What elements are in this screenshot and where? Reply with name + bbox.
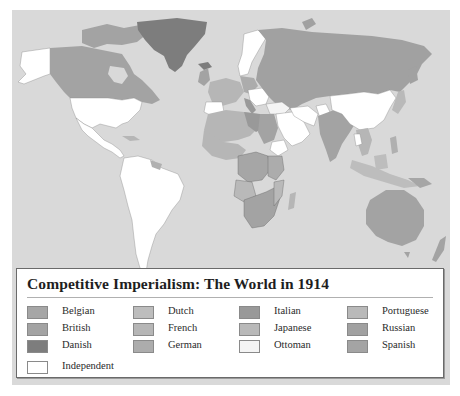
legend-label: Spanish [382, 339, 415, 350]
legend-label: Italian [274, 305, 301, 316]
legend-label: German [168, 339, 202, 350]
map-legend: Competitive Imperialism: The World in 19… [16, 268, 444, 378]
german-swatch [133, 340, 154, 353]
legend-label: Dutch [168, 305, 194, 316]
legend-label: French [168, 322, 197, 333]
french-swatch [133, 323, 154, 336]
russian-swatch [347, 323, 368, 336]
japanese-swatch [239, 323, 260, 336]
legend-label: Independent [62, 360, 114, 371]
legend-label: Portuguese [382, 305, 429, 316]
danish-swatch [27, 340, 48, 353]
dutch-swatch [133, 306, 154, 319]
spanish-swatch [347, 340, 368, 353]
legend-label: Japanese [274, 322, 311, 333]
british-swatch [27, 323, 48, 336]
italian-swatch [239, 306, 260, 319]
legend-label: Ottoman [274, 339, 311, 350]
legend-label: British [62, 322, 91, 333]
legend-label: Russian [382, 322, 415, 333]
ottoman-swatch [239, 340, 260, 353]
borneo [374, 154, 388, 170]
legend-label: Belgian [62, 305, 95, 316]
independent-swatch [27, 361, 48, 374]
legend-label: Danish [62, 339, 92, 350]
portuguese-swatch [347, 306, 368, 319]
map-title: Competitive Imperialism: The World in 19… [27, 275, 329, 293]
belgian-swatch [27, 306, 48, 319]
title-divider [27, 297, 433, 298]
